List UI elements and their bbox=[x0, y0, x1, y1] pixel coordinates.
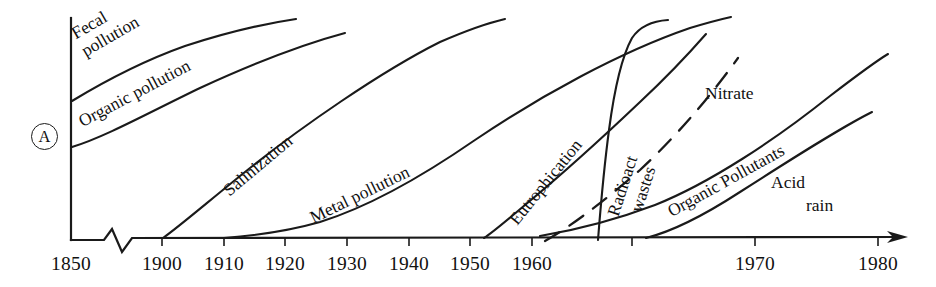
curve-label-nitrate: Nitrate bbox=[705, 84, 754, 103]
tick-label-1910: 1910 bbox=[204, 253, 244, 275]
panel-label-text: A bbox=[39, 127, 51, 147]
x-axis bbox=[71, 229, 899, 252]
tick-label-1920: 1920 bbox=[265, 253, 305, 275]
tick-label-1980: 1980 bbox=[858, 253, 898, 275]
tick-label-1950: 1950 bbox=[450, 253, 490, 275]
tick-label-1900: 1900 bbox=[142, 253, 182, 275]
tick-label-1930: 1930 bbox=[327, 253, 367, 275]
pollution-timeline-figure: A Fecal pollution Organic pollution Sali… bbox=[0, 0, 936, 287]
curve-label-acid: Acid bbox=[771, 173, 805, 192]
curve-organic-pollution bbox=[72, 33, 345, 147]
panel-label-a: A bbox=[31, 123, 58, 150]
curve-label-rain: rain bbox=[806, 196, 833, 215]
tick-label-1960: 1960 bbox=[512, 253, 552, 275]
tick-label-1850: 1850 bbox=[51, 253, 91, 275]
chart-canvas bbox=[0, 0, 936, 287]
tick-label-1940: 1940 bbox=[389, 253, 429, 275]
tick-label-1970: 1970 bbox=[735, 253, 775, 275]
